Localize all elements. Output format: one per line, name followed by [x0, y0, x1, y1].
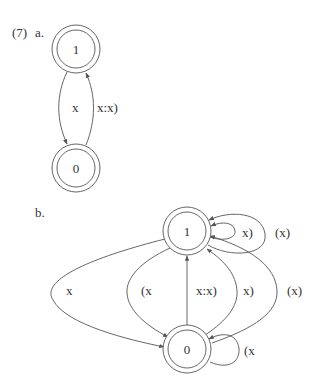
node-a-1-label: 1	[73, 42, 80, 57]
edge-a-1-to-0	[59, 72, 67, 144]
node-a-0: 0	[52, 144, 100, 192]
node-b-0: 0	[163, 325, 211, 373]
edge-b-0-loop-label: (x	[244, 343, 255, 358]
part-a-label: a.	[35, 25, 44, 40]
edge-b-1-to-0-inner-label: (x	[141, 283, 152, 298]
edge-b-0-loop	[209, 335, 239, 365]
part-a: (7) a. x x:x) 1 0	[12, 25, 118, 192]
part-b-label: b.	[35, 205, 45, 220]
edge-b-0-to-1-straight-label: x:x)	[196, 283, 217, 298]
edge-a-1-to-0-label: x	[72, 100, 79, 115]
edge-b-0-to-1-outer-label: (x)	[287, 283, 302, 298]
node-b-1: 1	[163, 207, 211, 255]
edge-b-1-loop-inner-label: x)	[242, 225, 253, 240]
node-a-1: 1	[52, 25, 100, 73]
part-b: b. (x) x) x (x x:x) x) (x) (x 1	[35, 205, 302, 373]
edge-a-0-to-1-label: x:x)	[97, 100, 118, 115]
edge-b-0-to-1-inner-label: x)	[243, 283, 254, 298]
node-a-0-label: 0	[73, 161, 80, 176]
state-diagram: (7) a. x x:x) 1 0 b. (x) x) x	[0, 0, 315, 390]
edge-b-1-to-0-outer-label: x	[66, 283, 73, 298]
edge-b-1-loop-outer-label: (x)	[275, 225, 290, 240]
edge-b-1-loop-outer	[208, 214, 265, 253]
node-b-0-label: 0	[184, 342, 191, 357]
problem-number: (7)	[12, 25, 27, 40]
edge-a-0-to-1	[86, 73, 94, 145]
node-b-1-label: 1	[184, 224, 191, 239]
